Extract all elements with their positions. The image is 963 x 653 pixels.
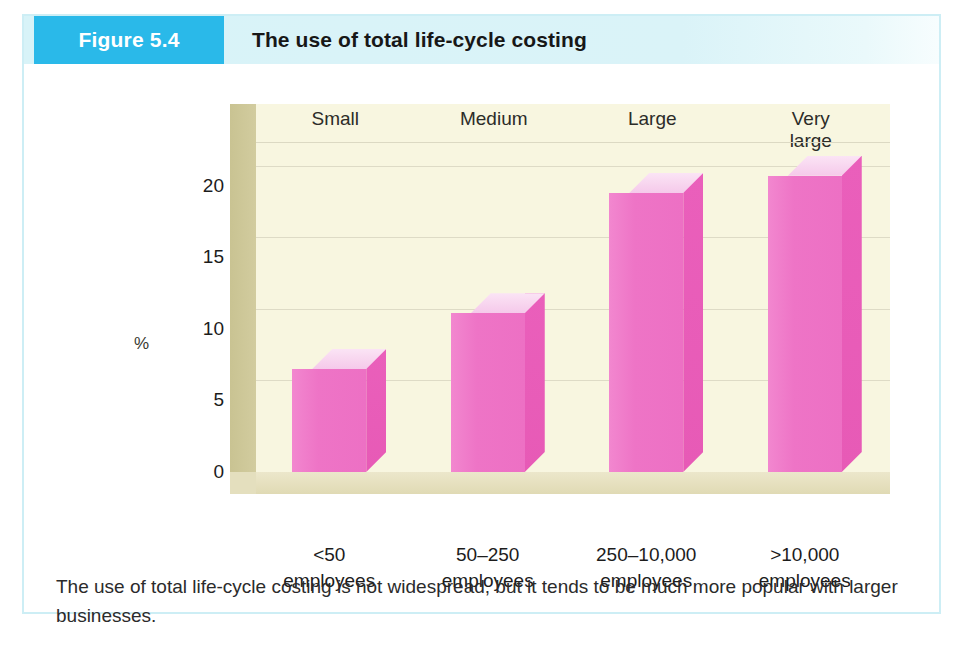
bar-front-face	[609, 193, 683, 472]
bar-column	[292, 349, 366, 472]
category-top-label: Small	[311, 108, 359, 130]
category-top-label: Medium	[460, 108, 528, 130]
x-tick-label-line: <50	[283, 542, 375, 568]
plot-left-wall	[230, 104, 256, 494]
plot-3d-box: SmallMediumLargeVery large	[230, 104, 890, 494]
category-header-divider	[256, 142, 890, 143]
bar-front-face	[292, 369, 366, 472]
bar-side-face	[842, 156, 862, 472]
y-axis-ticks: 05101520	[164, 64, 224, 554]
bar-side-face	[366, 349, 386, 472]
figure-title: The use of total life-cycle costing	[252, 16, 587, 64]
bar-column	[609, 173, 683, 472]
bar-side-face	[683, 173, 703, 472]
bar-column	[768, 156, 842, 472]
x-tick-label-line: 50–250	[442, 542, 534, 568]
figure-number-badge: Figure 5.4	[34, 16, 224, 64]
category-top-label: Very large	[771, 108, 850, 152]
category-top-labels: SmallMediumLargeVery large	[256, 104, 890, 142]
y-tick-label: 10	[164, 318, 224, 340]
y-tick-label: 0	[164, 461, 224, 483]
y-tick-label: 5	[164, 389, 224, 411]
y-tick-label: 15	[164, 246, 224, 268]
bar-side-face	[525, 293, 545, 472]
category-top-label: Large	[628, 108, 677, 130]
x-tick-label-line: >10,000	[759, 542, 851, 568]
bar-front-face	[768, 176, 842, 472]
plot-floor-front	[256, 472, 890, 494]
bar-front-face	[451, 313, 525, 472]
y-axis-title: %	[134, 334, 149, 354]
figure-container: Figure 5.4 The use of total life-cycle c…	[22, 14, 941, 614]
y-tick-label: 20	[164, 175, 224, 197]
figure-header: Figure 5.4 The use of total life-cycle c…	[24, 16, 939, 64]
figure-caption: The use of total life-cycle costing is n…	[56, 572, 906, 630]
bar-column	[451, 293, 525, 472]
x-tick-label-line: 250–10,000	[596, 542, 696, 568]
chart-area: % 05101520 SmallMediumLargeVery large <5…	[24, 64, 939, 554]
